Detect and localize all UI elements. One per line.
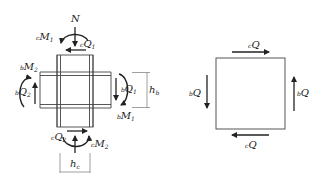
beam-moment-right-label: bM1 (117, 110, 135, 122)
beam-moment-left-label: bM2 (20, 61, 38, 73)
panel-right-shear-label: bQ (297, 87, 309, 98)
beam-depth-label: hb (149, 84, 159, 96)
column-member (57, 55, 93, 127)
panel-top-shear-label: cQ (248, 39, 260, 50)
column-moment-top-label: cM1 (36, 31, 53, 43)
axial-force-label: N (70, 13, 81, 24)
panel-square (216, 58, 285, 129)
diagram-canvas: N cM1 cQ1 bM2 bQ2 bQ1 bM1 (0, 0, 323, 187)
beam-shear-left-label: bQ2 (15, 86, 31, 98)
column-depth-label: hc (70, 158, 80, 170)
column-moment-bottom-label: cM2 (91, 138, 109, 150)
column-shear-top-label: cQ1 (80, 38, 95, 50)
panel-bottom-shear-label: cQ (245, 139, 257, 150)
column-moment-bottom-arc (63, 136, 89, 147)
panel-left-shear-label: bQ (189, 87, 201, 98)
beam-column-joint: N cM1 cQ1 bM2 bQ2 bQ1 bM1 (15, 13, 159, 173)
panel-zone: cQ cQ bQ bQ (189, 39, 309, 150)
beam-shear-right-label: bQ1 (121, 83, 137, 95)
